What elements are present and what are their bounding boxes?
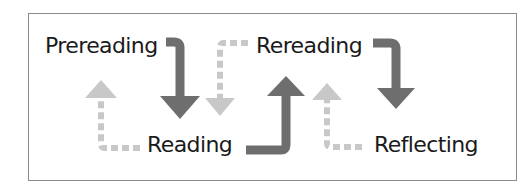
stage-rereading-label: Rereading	[256, 35, 362, 57]
arrow-rereading-to-reading-icon	[205, 43, 248, 116]
arrows-layer	[0, 0, 532, 187]
stage-reflecting-label: Reflecting	[374, 134, 478, 156]
arrow-reading-to-rereading-icon	[246, 76, 305, 150]
stage-reading-label: Reading	[147, 134, 232, 156]
arrow-prereading-to-reading-icon	[160, 42, 200, 119]
arrow-rereading-to-reflecting-icon	[373, 43, 415, 109]
arrow-reading-to-prereading-icon	[85, 80, 140, 148]
arrow-reflecting-to-rereading-icon	[312, 83, 362, 147]
stage-prereading-label: Prereading	[45, 35, 158, 57]
